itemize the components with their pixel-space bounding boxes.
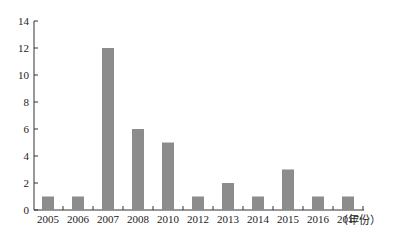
y-tick-label: 0 [24, 204, 30, 216]
bar-chart: 02468101214 2005200620072008201020122013… [0, 0, 417, 237]
x-tick-label: 2007 [97, 213, 120, 225]
bar-2013 [222, 183, 234, 210]
y-tick-label: 6 [24, 123, 30, 135]
x-tick-label: 2014 [247, 213, 270, 225]
y-tick-label: 14 [18, 15, 30, 27]
y-tick-label: 10 [18, 69, 30, 81]
x-tick-label: 2015 [277, 213, 300, 225]
x-tick-label: 2006 [67, 213, 90, 225]
y-tick-label: 4 [24, 150, 30, 162]
bar-2008 [132, 129, 144, 210]
bar-2014 [252, 197, 264, 211]
x-tick-label: 2005 [37, 213, 60, 225]
y-axis: 02468101214 [18, 15, 38, 216]
bar-2006 [72, 197, 84, 211]
bar-2010 [162, 143, 174, 211]
bar-2015 [282, 170, 294, 211]
bars [42, 48, 354, 210]
x-tick-label: 2016 [307, 213, 330, 225]
bar-2017 [342, 197, 354, 211]
bar-2016 [312, 197, 324, 211]
y-tick-label: 12 [18, 42, 29, 54]
bar-2005 [42, 197, 54, 211]
x-axis-title: （年份） [337, 213, 381, 227]
x-tick-label: 2013 [217, 213, 240, 225]
y-tick-label: 8 [24, 96, 30, 108]
bar-2007 [102, 48, 114, 210]
bar-2012 [192, 197, 204, 211]
x-tick-label: 2008 [127, 213, 150, 225]
y-tick-label: 2 [24, 177, 30, 189]
x-tick-label: 2010 [157, 213, 180, 225]
x-tick-label: 2012 [187, 213, 209, 225]
